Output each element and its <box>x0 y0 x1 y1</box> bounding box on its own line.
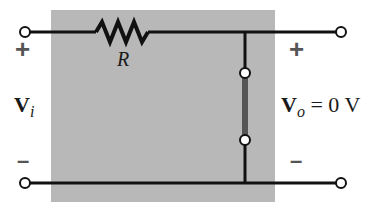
output-voltage-subscript: o <box>297 103 305 120</box>
input-minus-sign: – <box>17 148 29 174</box>
short-terminal-top <box>240 68 250 78</box>
output-voltage-label: Vo = 0 V <box>281 92 360 118</box>
output-voltage-main: V <box>281 92 297 117</box>
resistor-label: R <box>117 48 129 71</box>
input-plus-sign: + <box>15 34 30 65</box>
output-minus-sign: – <box>290 148 302 174</box>
input-voltage-main: V <box>14 92 30 117</box>
output-terminal-top <box>336 27 346 37</box>
input-voltage-subscript: i <box>30 103 34 120</box>
output-terminal-bottom <box>336 178 346 188</box>
input-voltage-label: Vi <box>14 92 34 118</box>
output-plus-sign: + <box>289 34 304 65</box>
shaded-region <box>51 10 275 202</box>
short-terminal-bottom <box>240 135 250 145</box>
output-voltage-value: = 0 V <box>305 92 360 117</box>
input-terminal-bottom <box>20 178 30 188</box>
